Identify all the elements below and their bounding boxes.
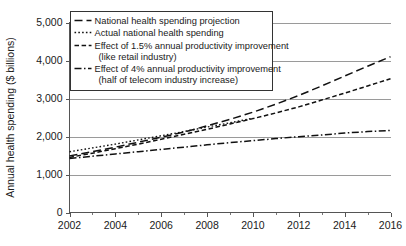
series-line-3 — [70, 130, 391, 158]
y-tick-label: 4,000 — [36, 54, 62, 66]
legend-label-0: National health spending projection — [95, 16, 240, 26]
y-tick-label: 0 — [57, 206, 63, 218]
legend-label-2: Effect of 1.5% annual productivity impro… — [95, 41, 290, 51]
x-tick-label: 2002 — [58, 219, 82, 231]
x-tick-labels: 20022004200620082010201220142016 — [58, 219, 403, 231]
line-chart: 01,0002,0003,0004,0005,000 2002200420062… — [0, 0, 406, 246]
y-axis — [66, 22, 70, 214]
legend-label-3-sub: (half of telecom industry increase) — [99, 75, 239, 85]
y-axis-title-label: Annual health spending ($ billions) — [4, 37, 16, 198]
legend-label-3: Effect of 4% annual productivity improve… — [95, 64, 282, 74]
y-tick-labels: 01,0002,0003,0004,0005,000 — [36, 16, 62, 218]
x-tick-label: 2016 — [379, 219, 403, 231]
x-tick-label: 2006 — [150, 219, 174, 231]
x-tick-label: 2010 — [241, 219, 265, 231]
y-tick-label: 5,000 — [36, 16, 62, 28]
y-tick-label: 2,000 — [36, 130, 62, 142]
x-tick-label: 2004 — [104, 219, 128, 231]
x-tick-label: 2012 — [287, 219, 311, 231]
legend: National health spending projectionActua… — [71, 12, 290, 91]
x-tick-label: 2014 — [333, 219, 357, 231]
legend-label-1: Actual national health spending — [95, 28, 224, 38]
series-line-1 — [70, 118, 253, 151]
y-tick-label: 3,000 — [36, 92, 62, 104]
chart-container: 01,0002,0003,0004,0005,000 2002200420062… — [0, 0, 406, 246]
y-axis-title: Annual health spending ($ billions) — [4, 37, 16, 198]
x-axis — [70, 213, 392, 217]
x-tick-label: 2008 — [195, 219, 219, 231]
y-tick-label: 1,000 — [36, 168, 62, 180]
legend-label-2-sub: (like retail industry) — [99, 52, 177, 62]
